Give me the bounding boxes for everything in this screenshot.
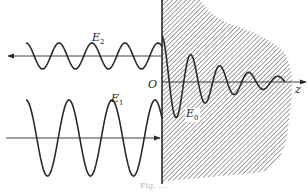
label-e1: E1	[111, 93, 124, 107]
label-e2: E2	[92, 32, 105, 46]
figure-caption: Fig. ...	[140, 182, 166, 190]
label-e2-sub: 2	[100, 38, 104, 46]
label-e0: E0	[185, 108, 200, 122]
label-e0-sub: 0	[194, 114, 198, 122]
label-z-axis: z	[295, 84, 301, 95]
label-e0-letter: E	[186, 107, 194, 120]
label-e1-sub: 1	[119, 99, 123, 107]
conductor-medium-region	[162, 0, 292, 182]
label-e2-letter: E	[92, 31, 100, 44]
wave-reflection-diagram	[0, 0, 308, 192]
label-e1-letter: E	[111, 92, 119, 105]
label-origin: O	[148, 79, 157, 90]
